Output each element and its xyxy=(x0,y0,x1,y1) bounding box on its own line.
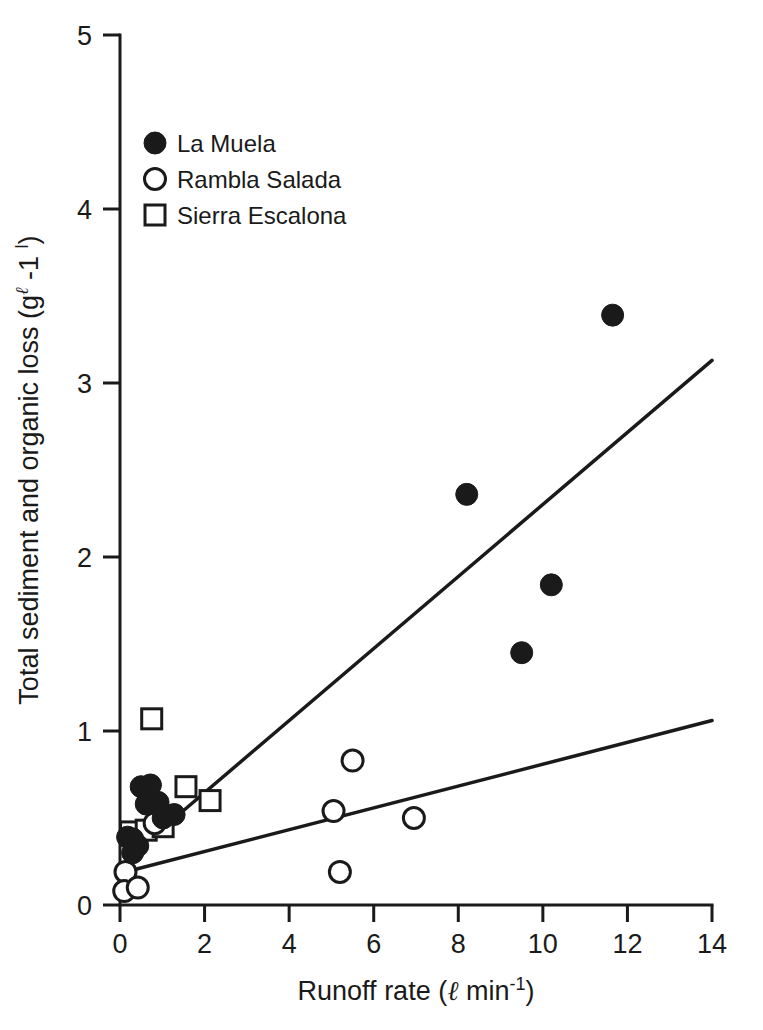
scatter-plot-figure: 02468101214 012345 La MuelaRambla Salada… xyxy=(0,0,763,1030)
data-points xyxy=(114,304,624,901)
data-point xyxy=(163,804,185,826)
data-point xyxy=(200,791,220,811)
legend-marker-open-square xyxy=(145,205,165,225)
plot-canvas: 02468101214 012345 La MuelaRambla Salada… xyxy=(0,0,763,1030)
data-point xyxy=(323,801,344,822)
y-tick-label: 2 xyxy=(77,543,92,573)
legend-label: Sierra Escalona xyxy=(177,202,347,229)
data-point xyxy=(176,777,196,797)
steep-regression-line xyxy=(169,360,712,823)
legend-item-rambla-salada: Rambla Salada xyxy=(145,166,342,193)
legend-label: Rambla Salada xyxy=(177,166,342,193)
x-tick-label: 0 xyxy=(112,929,127,959)
legend-marker-filled-circle xyxy=(144,132,166,154)
x-tick-label: 14 xyxy=(697,929,727,959)
legend: La MuelaRambla SaladaSierra Escalona xyxy=(144,130,347,229)
data-point xyxy=(511,642,533,664)
x-axis-title-text: Runoff rate (ℓ min-1) xyxy=(298,974,535,1006)
x-tick-label: 4 xyxy=(282,929,297,959)
x-axis-ticks: 02468101214 xyxy=(112,905,727,959)
y-axis-title: Total sediment and organic loss (gℓ -1 l… xyxy=(12,235,44,704)
y-tick-label: 1 xyxy=(77,717,92,747)
x-tick-label: 10 xyxy=(528,929,558,959)
data-point xyxy=(456,483,478,505)
y-tick-label: 4 xyxy=(77,195,92,225)
data-point xyxy=(540,574,562,596)
legend-label: La Muela xyxy=(177,130,276,157)
y-tick-label: 3 xyxy=(77,369,92,399)
legend-item-la-muela: La Muela xyxy=(144,130,276,157)
data-point xyxy=(403,808,424,829)
x-tick-label: 12 xyxy=(612,929,642,959)
y-axis-ticks: 012345 xyxy=(77,21,120,921)
y-tick-label: 5 xyxy=(77,21,92,51)
x-tick-label: 2 xyxy=(197,929,212,959)
legend-marker-open-circle xyxy=(145,169,166,190)
data-point xyxy=(342,750,363,771)
x-tick-label: 8 xyxy=(451,929,466,959)
data-point xyxy=(142,709,162,729)
x-axis-title: Runoff rate (ℓ min-1) xyxy=(298,974,535,1006)
x-tick-label: 6 xyxy=(366,929,381,959)
y-axis-title-text: Total sediment and organic loss (gℓ -1 l… xyxy=(12,235,44,704)
data-point xyxy=(602,304,624,326)
data-point xyxy=(329,861,350,882)
data-point xyxy=(122,842,144,864)
data-point xyxy=(127,877,148,898)
y-tick-label: 0 xyxy=(77,891,92,921)
legend-item-sierra-escalona: Sierra Escalona xyxy=(145,202,347,229)
